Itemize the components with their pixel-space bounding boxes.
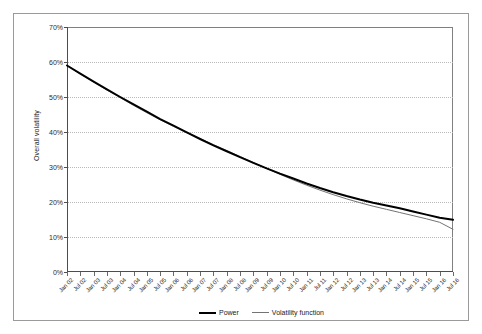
x-axis-tick-mark — [413, 272, 414, 276]
legend-label: Volatility function — [272, 309, 324, 316]
x-axis-tick-mark — [240, 272, 241, 276]
y-axis-tick-label: 60% — [49, 59, 63, 66]
chart-figure: Overall volatility 0%10%20%30%40%50%60%7… — [0, 0, 482, 334]
x-axis-tick-mark — [386, 272, 387, 276]
x-axis-tick-label: Jan 16 — [430, 277, 447, 294]
y-axis-tick-label: 0% — [53, 269, 63, 276]
series-line — [67, 66, 453, 230]
x-axis-tick-mark — [67, 272, 68, 276]
legend-entry: Power — [199, 309, 239, 316]
x-axis-tick-mark — [280, 272, 281, 276]
x-axis-tick-label: Jan 14 — [377, 277, 394, 294]
legend-entry: Volatility function — [252, 309, 324, 316]
legend-label: Power — [219, 309, 239, 316]
x-axis-tick-label: Jan 03 — [84, 277, 101, 294]
x-axis-tick-mark — [107, 272, 108, 276]
plot-area: 0%10%20%30%40%50%60%70% Jan 02Jul 02Jan … — [67, 27, 453, 272]
y-axis-tick-label: 20% — [49, 199, 63, 206]
x-axis-tick-mark — [293, 272, 294, 276]
x-axis-tick-label: Jul 16 — [445, 277, 460, 292]
x-axis-tick-mark — [333, 272, 334, 276]
chart-frame: Overall volatility 0%10%20%30%40%50%60%7… — [13, 13, 469, 321]
x-axis-tick-mark — [360, 272, 361, 276]
series-layer — [67, 27, 453, 272]
x-axis-tick-mark — [253, 272, 254, 276]
y-axis-tick-label: 30% — [49, 164, 63, 171]
x-axis-tick-mark — [307, 272, 308, 276]
x-axis-tick-mark — [80, 272, 81, 276]
x-axis-tick-label: Jan 11 — [298, 277, 314, 293]
x-axis-tick-mark — [147, 272, 148, 276]
x-axis-tick-mark — [453, 272, 454, 276]
legend-swatch-power — [199, 312, 216, 314]
y-axis-tick-label: 70% — [49, 24, 63, 31]
legend-swatch-volfunc — [252, 312, 269, 313]
x-axis-tick-mark — [400, 272, 401, 276]
y-axis-tick-label: 10% — [49, 234, 63, 241]
x-axis-tick-label: Jan 02 — [58, 277, 75, 294]
series-line — [67, 66, 453, 220]
x-axis-tick-mark — [134, 272, 135, 276]
x-axis-tick-mark — [200, 272, 201, 276]
x-axis-tick-mark — [373, 272, 374, 276]
x-axis-tick-label: Jan 09 — [244, 277, 261, 294]
x-axis-tick-mark — [94, 272, 95, 276]
x-axis-tick-mark — [426, 272, 427, 276]
x-axis-tick-mark — [120, 272, 121, 276]
x-axis-tick-mark — [320, 272, 321, 276]
y-axis-title: Overall volatility — [33, 71, 40, 201]
chart-legend: PowerVolatility function — [199, 309, 324, 316]
x-axis-tick-mark — [173, 272, 174, 276]
x-axis-tick-mark — [267, 272, 268, 276]
y-axis-tick-label: 40% — [49, 129, 63, 136]
x-axis-tick-mark — [187, 272, 188, 276]
x-axis-tick-mark — [440, 272, 441, 276]
x-axis-tick-mark — [227, 272, 228, 276]
y-axis-tick-label: 50% — [49, 94, 63, 101]
x-axis-tick-label: Jan 08 — [217, 277, 234, 294]
x-axis-tick-mark — [347, 272, 348, 276]
x-axis-tick-label: Jan 06 — [164, 277, 181, 294]
x-axis-tick-mark — [213, 272, 214, 276]
x-axis-tick-mark — [160, 272, 161, 276]
